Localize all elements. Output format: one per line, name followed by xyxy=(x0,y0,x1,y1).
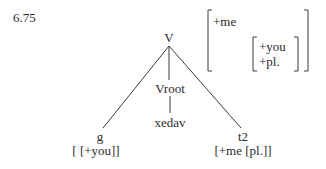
node-vroot: Vroot xyxy=(155,82,185,95)
node-t2: t2 xyxy=(238,130,248,143)
matrix-outer-feature: +me xyxy=(213,15,236,28)
node-xedav: xedav xyxy=(154,116,185,129)
matrix-inner-feature-pl: +pl. xyxy=(259,55,280,68)
node-g-features: [ [+you]] xyxy=(72,144,119,157)
inner-bracket-left xyxy=(253,37,257,71)
inner-bracket-right xyxy=(294,37,298,71)
outer-bracket-left xyxy=(208,10,212,71)
matrix-inner-feature-you: +you xyxy=(259,40,286,53)
node-t2-features: [+me [pl.]] xyxy=(214,144,271,157)
node-v: V xyxy=(164,31,173,44)
node-g: g xyxy=(97,130,104,143)
outer-bracket-right xyxy=(304,10,308,71)
